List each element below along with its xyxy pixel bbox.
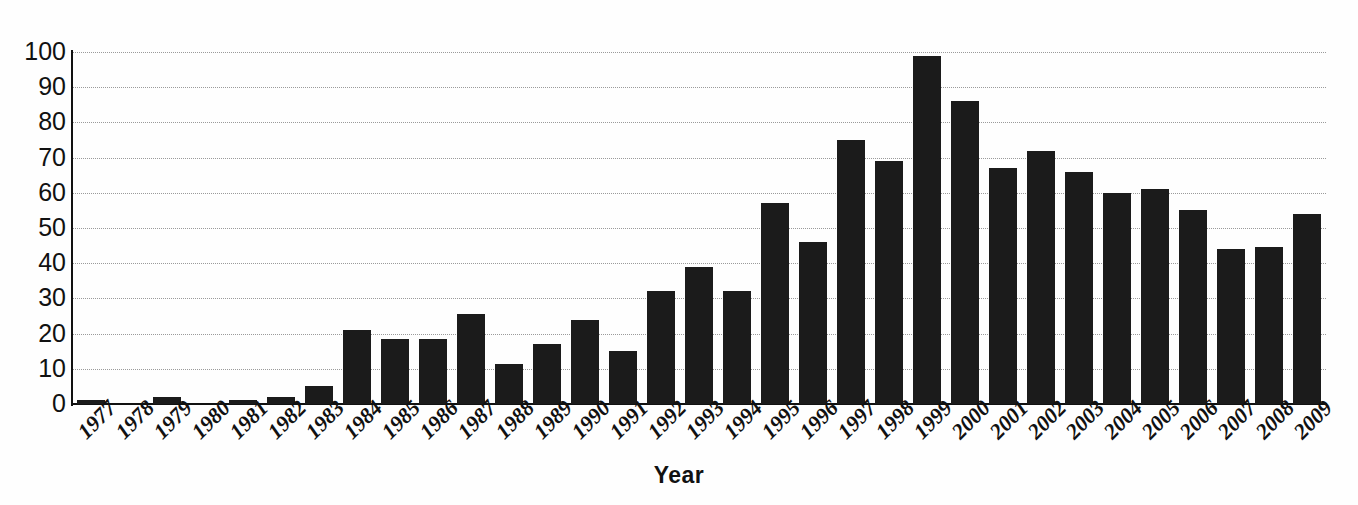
bar [837,140,866,404]
bar-slot [1174,52,1212,404]
y-axis-tick-label: 20 [6,321,66,346]
bar-slot [984,52,1022,404]
bars-group [72,52,1326,404]
bar-slot [186,52,224,404]
bar [1255,247,1284,404]
bar [913,56,942,404]
bar-slot [1212,52,1250,404]
bar-slot [1288,52,1326,404]
bar-slot [528,52,566,404]
bar [1103,193,1132,404]
bar [723,291,752,404]
bar-slot [1136,52,1174,404]
bar-slot [300,52,338,404]
y-axis-tick-label: 40 [6,250,66,275]
bar [875,161,904,404]
y-axis-tick-label: 70 [6,145,66,170]
y-axis-tick-label: 100 [6,39,66,64]
y-axis-tick-label: 0 [6,391,66,416]
bar [647,291,676,404]
bar [761,203,790,404]
bar [381,339,410,404]
y-axis-tick-label: 80 [6,109,66,134]
bar [1141,189,1170,404]
x-axis-tick-label: 2009 [1290,396,1337,443]
bar [1217,249,1246,404]
bar-slot [832,52,870,404]
bar [1065,172,1094,404]
bar [457,314,486,404]
bar-slot [338,52,376,404]
bar-slot [414,52,452,404]
bar-slot [1060,52,1098,404]
bar [1027,151,1056,404]
bar-chart-figure: 0102030405060708090100 19771978197919801… [0,0,1358,505]
bar-slot [946,52,984,404]
bar-slot [756,52,794,404]
bar-slot [794,52,832,404]
bar [1293,214,1322,404]
y-axis-tick-label: 60 [6,180,66,205]
bar-slot [1098,52,1136,404]
bar-slot [870,52,908,404]
y-axis-tick-label: 30 [6,285,66,310]
bar-slot [680,52,718,404]
bar-slot [718,52,756,404]
bar [951,101,980,404]
y-axis-tick-label: 90 [6,74,66,99]
x-axis-title: Year [0,462,1358,489]
bar-slot [72,52,110,404]
bar-slot [148,52,186,404]
bar-slot [110,52,148,404]
bar-slot [262,52,300,404]
bar [1179,210,1208,404]
bar [419,339,448,404]
bar [989,168,1018,404]
bar-slot [376,52,414,404]
bar [533,344,562,404]
bar-slot [604,52,642,404]
plot-area [72,52,1326,404]
y-axis-tick-label: 50 [6,215,66,240]
bar [343,330,372,404]
bar [685,267,714,404]
y-axis-tick-label: 10 [6,356,66,381]
bar-slot [566,52,604,404]
bar-slot [1022,52,1060,404]
bar [571,320,600,404]
bar-slot [908,52,946,404]
bar-slot [490,52,528,404]
bar-slot [224,52,262,404]
bar-slot [452,52,490,404]
bar-slot [1250,52,1288,404]
bar [799,242,828,404]
bar-slot [642,52,680,404]
